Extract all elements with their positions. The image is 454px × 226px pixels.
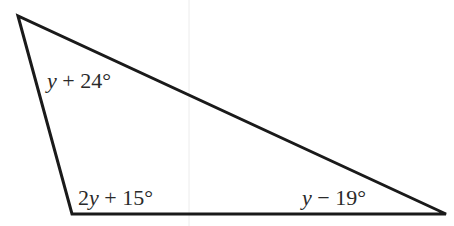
angle-constant: + 15° [99,185,153,210]
angle-label-bottom-left: 2y + 15° [78,185,153,210]
triangle-diagram: y + 24° 2y + 15° y − 19° [0,0,454,226]
triangle-canvas: y + 24° 2y + 15° y − 19° [0,0,454,226]
angle-label-top-left: y + 24° [45,68,111,93]
angle-constant: + 24° [57,68,111,93]
angle-coefficient: 2 [78,185,89,210]
angle-variable: y [300,185,312,210]
angle-variable: y [45,68,57,93]
angle-variable: y [87,185,99,210]
angle-constant: − 19° [312,185,366,210]
angle-label-bottom-right: y − 19° [300,185,366,210]
